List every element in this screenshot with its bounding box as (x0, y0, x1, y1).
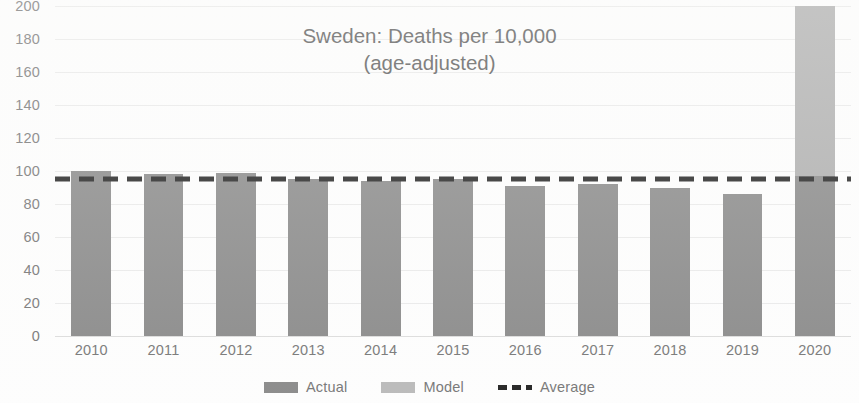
legend-swatch-dash-icon (498, 385, 532, 390)
y-axis-tick-label: 200 (15, 0, 40, 14)
bar-segment-actual[interactable] (71, 171, 111, 336)
bar-segment-actual[interactable] (433, 179, 473, 336)
y-axis-tick-label: 0 (32, 328, 40, 344)
legend-item[interactable]: Average (498, 379, 595, 395)
bar-segment-model[interactable] (795, 6, 835, 176)
chart-legend: ActualModelAverage (0, 379, 859, 395)
legend-label: Model (423, 379, 464, 395)
y-axis: 200180160140120100806040200 (0, 0, 48, 403)
x-axis-tick-label: 2010 (75, 342, 108, 358)
x-axis-tick-label: 2018 (654, 342, 687, 358)
average-reference-line (55, 177, 851, 182)
y-axis-tick-label: 60 (23, 229, 40, 245)
bar-segment-actual[interactable] (723, 194, 763, 336)
bar-segment-actual[interactable] (216, 173, 256, 336)
x-axis-tick-label: 2019 (726, 342, 759, 358)
gridline (55, 336, 851, 337)
bar-group[interactable] (433, 6, 473, 336)
y-axis-tick-label: 160 (15, 64, 40, 80)
y-axis-tick-label: 100 (15, 163, 40, 179)
x-axis-tick-label: 2017 (581, 342, 614, 358)
bar-segment-actual[interactable] (361, 181, 401, 336)
bar-group[interactable] (361, 6, 401, 336)
y-axis-tick-label: 80 (23, 196, 40, 212)
x-axis-tick-label: 2012 (219, 342, 252, 358)
bar-segment-actual[interactable] (795, 176, 835, 336)
x-axis-tick-label: 2011 (148, 342, 180, 358)
bar-group[interactable] (216, 6, 256, 336)
y-axis-tick-label: 180 (15, 31, 40, 47)
y-axis-tick-label: 140 (15, 97, 40, 113)
bar-group[interactable] (795, 6, 835, 336)
bar-group[interactable] (288, 6, 328, 336)
bar-group[interactable] (144, 6, 184, 336)
legend-label: Average (540, 379, 595, 395)
x-axis-tick-label: 2013 (292, 342, 325, 358)
x-axis-tick-label: 2014 (364, 342, 397, 358)
bar-segment-actual[interactable] (578, 184, 618, 336)
bar-group[interactable] (723, 6, 763, 336)
x-axis-tick-label: 2020 (798, 342, 831, 358)
legend-label: Actual (306, 379, 348, 395)
y-axis-tick-label: 120 (15, 130, 40, 146)
bar-segment-actual[interactable] (505, 186, 545, 336)
chart-container: 200180160140120100806040200 201020112012… (0, 0, 859, 403)
legend-swatch-actual-icon (264, 382, 298, 393)
bar-segment-actual[interactable] (650, 188, 690, 337)
legend-swatch-model-icon (381, 382, 415, 393)
plot-area (55, 6, 851, 336)
bar-group[interactable] (71, 6, 111, 336)
bar-segment-actual[interactable] (288, 179, 328, 336)
bar-group[interactable] (505, 6, 545, 336)
y-axis-tick-label: 20 (23, 295, 40, 311)
bar-segment-actual[interactable] (144, 174, 184, 336)
bar-group[interactable] (578, 6, 618, 336)
x-axis-tick-label: 2015 (436, 342, 469, 358)
legend-item[interactable]: Model (381, 379, 464, 395)
bar-group[interactable] (650, 6, 690, 336)
x-axis: 2010201120122013201420152016201720182019… (55, 342, 851, 366)
x-axis-tick-label: 2016 (509, 342, 542, 358)
legend-item[interactable]: Actual (264, 379, 348, 395)
y-axis-tick-label: 40 (23, 262, 40, 278)
